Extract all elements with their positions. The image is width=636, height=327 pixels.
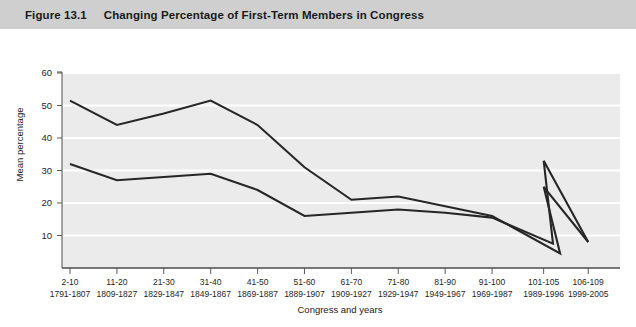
figure-title-bar: Figure 13.1 Changing Percentage of First… [0,0,636,29]
data-series-lines [70,101,588,254]
x-axis-tick-marks [70,268,588,274]
chart-plot-region: Mean percentage 102030405060 2-101791-18… [0,29,636,327]
x-axis-label-text: Congress and years [253,304,382,315]
plot-svg [0,29,636,327]
series-line-house [70,101,588,254]
gridlines [62,73,620,236]
x-axis-label: Congress and years [0,304,636,315]
y-axis-tick-marks [57,73,62,236]
figure-title: Changing Percentage of First-Term Member… [104,9,424,21]
figure-number: Figure 13.1 [25,9,87,21]
